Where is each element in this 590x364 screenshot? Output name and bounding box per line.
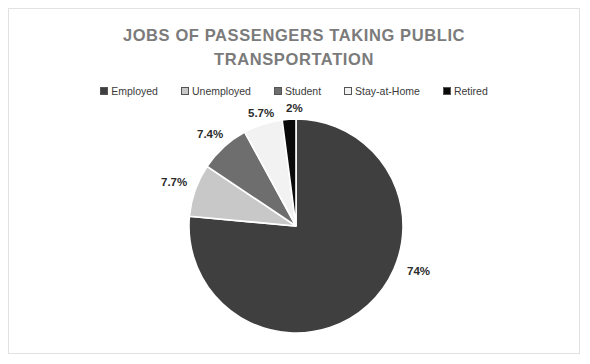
data-label-student: 7.4%: [197, 128, 223, 140]
data-label-stay-at-home: 5.7%: [248, 107, 274, 119]
chart-card: JOBS OF PASSENGERS TAKING PUBLIC TRANSPO…: [8, 8, 580, 354]
pie-chart-svg: [9, 9, 581, 355]
pie-chart-plot-area: 74% 7.7% 7.4% 5.7% 2%: [9, 9, 579, 353]
data-label-employed: 74%: [407, 265, 430, 277]
data-label-retired: 2%: [286, 102, 303, 114]
data-label-unemployed: 7.7%: [161, 176, 187, 188]
